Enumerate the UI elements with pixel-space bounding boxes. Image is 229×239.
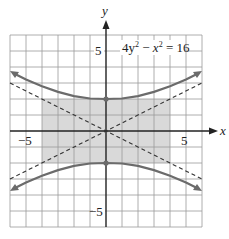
x-axis-label: x: [220, 124, 226, 137]
x-tick-label-5: 5: [181, 134, 188, 147]
equation-label: 4y2 − x2 = 16: [122, 41, 189, 54]
y-axis-label: y: [102, 4, 108, 17]
hyperbola-graph: [0, 0, 229, 239]
y-tick-label-neg5: −5: [89, 205, 103, 218]
x-axis-arrow-icon: [209, 128, 218, 135]
y-axis-arrow-icon: [103, 20, 110, 29]
x-tick-label-neg5: −5: [18, 134, 32, 147]
vertex-lower: [103, 160, 108, 165]
vertex-upper: [103, 96, 108, 101]
y-tick-label-5: 5: [95, 44, 102, 57]
